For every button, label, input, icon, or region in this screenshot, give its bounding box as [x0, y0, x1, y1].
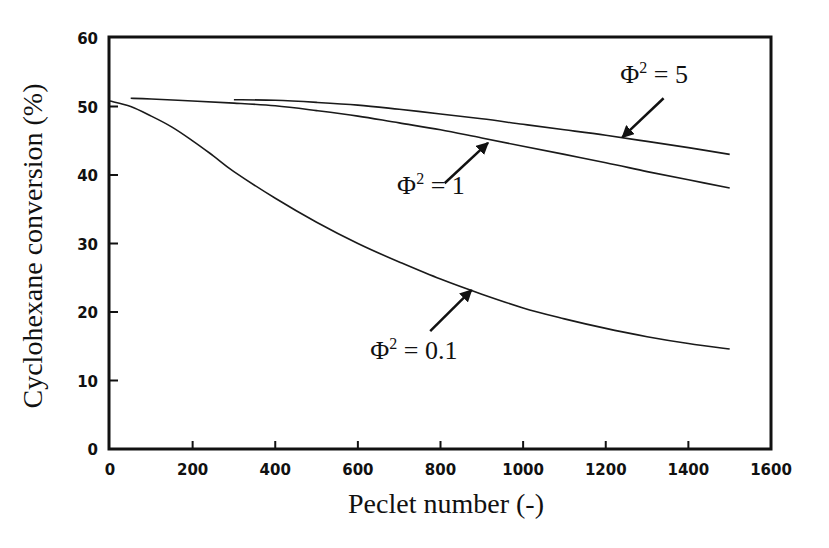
annotation-arrow-icon [430, 290, 471, 331]
data-series [110, 98, 730, 349]
series-annotation-label: Φ2 = 5 [620, 59, 688, 89]
plot-frame [109, 37, 771, 449]
axis-ticks [110, 107, 688, 450]
y-tick-label: 40 [77, 167, 98, 185]
series-line-2 [234, 100, 730, 155]
y-tick-label: 50 [77, 99, 98, 117]
x-tick-label: 0 [105, 461, 115, 479]
x-tick-label: 1200 [585, 461, 627, 479]
y-tick-label: 10 [77, 373, 98, 391]
x-tick-label: 1400 [668, 461, 710, 479]
x-tick-label: 200 [177, 461, 208, 479]
annotation-arrow-icon [622, 98, 663, 137]
x-tick-label: 600 [342, 461, 373, 479]
y-tick-label: 20 [77, 304, 98, 322]
x-tick-label: 1600 [750, 461, 792, 479]
series-annotations: Φ2 = 5Φ2 = 1Φ2 = 0.1 [370, 59, 688, 365]
series-annotation-label: Φ2 = 0.1 [370, 335, 457, 365]
line-chart: 0200400600800100012001400160001020304050… [0, 0, 829, 548]
series-line-0 [110, 101, 730, 349]
axis-tick-labels: 0200400600800100012001400160001020304050… [77, 30, 792, 479]
x-axis-label: Peclet number (-) [348, 488, 544, 519]
x-tick-label: 1000 [502, 461, 544, 479]
y-tick-label: 0 [88, 441, 98, 459]
y-axis-label: Cyclohexane conversion (%) [17, 84, 48, 409]
y-tick-label: 60 [77, 30, 98, 48]
series-annotation-label: Φ2 = 1 [397, 170, 465, 200]
x-tick-label: 800 [425, 461, 456, 479]
x-tick-label: 400 [260, 461, 291, 479]
y-tick-label: 30 [77, 236, 98, 254]
